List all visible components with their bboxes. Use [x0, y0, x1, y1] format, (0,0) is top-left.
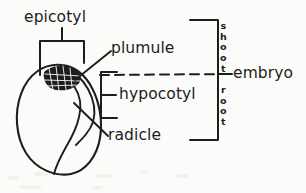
label-plumule: plumule — [111, 41, 174, 57]
scan-speckle — [140, 170, 149, 174]
shoot-letter-4: t — [221, 64, 226, 75]
scan-speckle — [34, 172, 48, 176]
scan-speckle — [92, 186, 103, 189]
scan-speckle — [96, 174, 114, 178]
label-epicotyl: epicotyl — [24, 10, 86, 26]
root-letter-3: t — [221, 117, 226, 128]
embryo-dashed-line — [100, 74, 231, 75]
label-radicle: radicle — [108, 128, 161, 144]
label-embryo: embryo — [233, 66, 293, 82]
scan-speckle — [20, 185, 42, 189]
shoot-letter-3: o — [220, 53, 227, 64]
hypocotyl-bracket — [101, 72, 117, 118]
scan-speckle — [8, 176, 18, 180]
scan-speckle — [176, 174, 189, 178]
label-shoot: s h o o t — [220, 21, 227, 74]
label-root: r o o t — [220, 85, 227, 128]
seed-embryo-diagram: epicotyl plumule hypocotyl radicle embry… — [0, 0, 306, 193]
label-hypocotyl: hypocotyl — [119, 87, 196, 103]
